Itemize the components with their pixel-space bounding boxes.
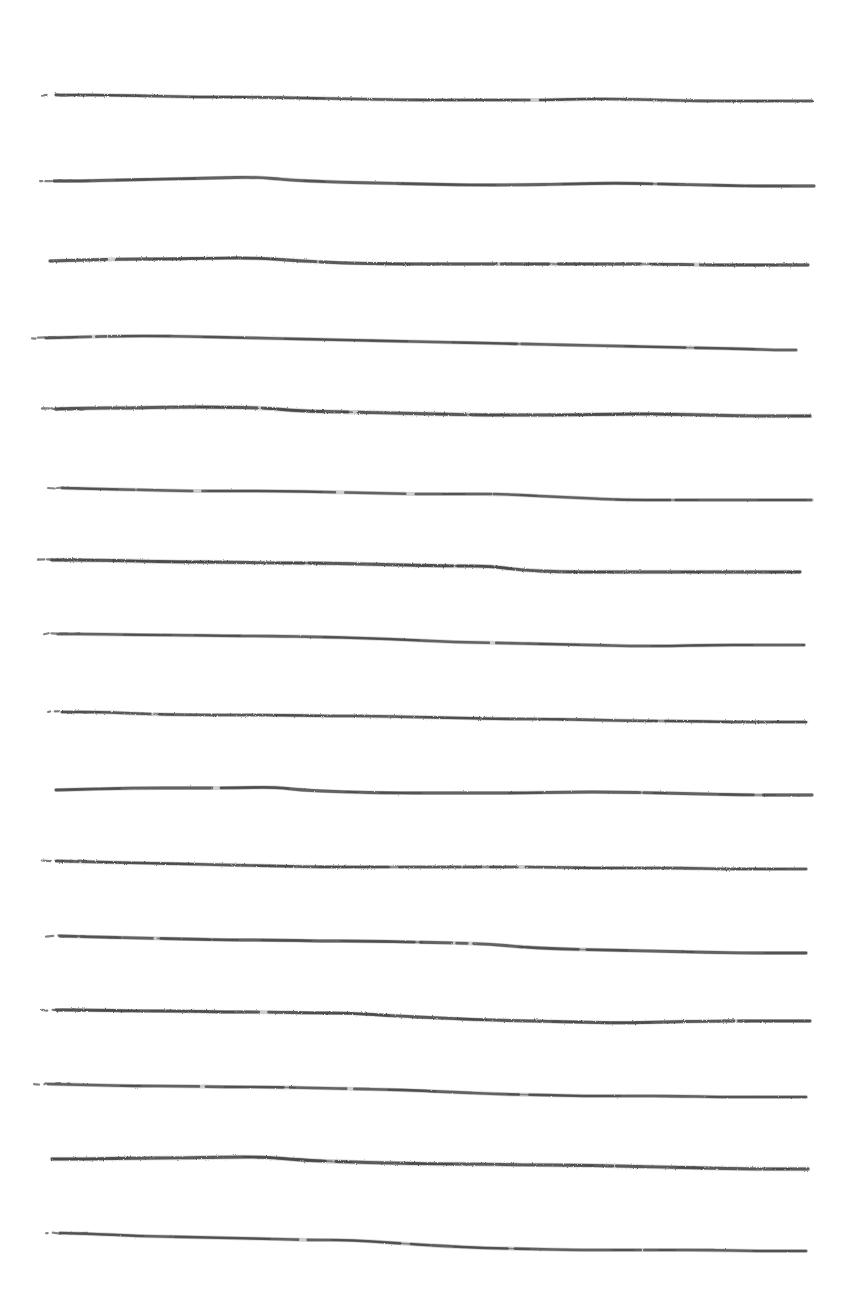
page-canvas: Hand-drawn horizontal ruled lines xyxy=(0,0,853,1306)
paper-background xyxy=(0,0,853,1306)
hand-drawn-lines-svg xyxy=(0,0,853,1306)
ruled-lines-sheet xyxy=(0,0,853,1306)
